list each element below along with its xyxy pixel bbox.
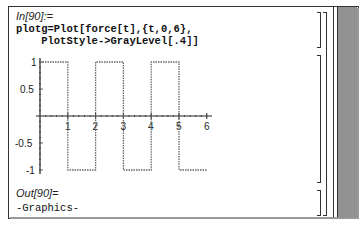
y-tick-label: -1: [26, 165, 35, 176]
y-tick-label: 1: [31, 57, 37, 68]
x-tick-label: 6: [204, 121, 210, 132]
y-tick-label: 0.5: [20, 84, 34, 95]
output-label: Out[90]=: [16, 187, 59, 199]
output-value: -Graphics-: [16, 202, 79, 214]
y-tick-label: -0.5: [15, 138, 33, 149]
